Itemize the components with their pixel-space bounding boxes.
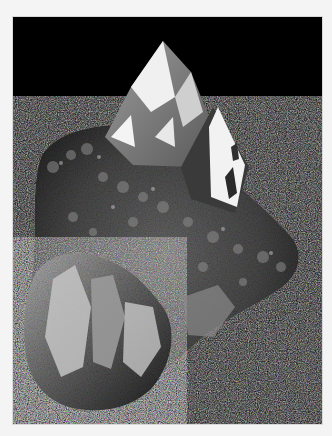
quartz-crystal-illustration xyxy=(13,17,322,424)
crystal-photo: Grayscale photograph of a quartz crystal… xyxy=(13,17,322,424)
